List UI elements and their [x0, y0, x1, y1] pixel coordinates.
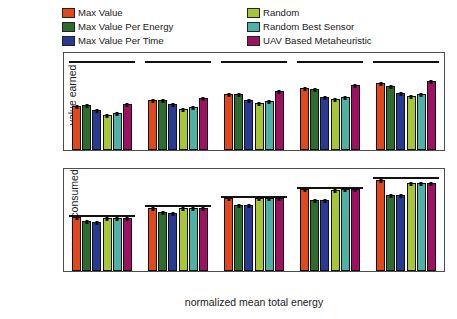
legend-entry: Max Value Per Time [62, 34, 247, 48]
error-bar [126, 103, 129, 107]
bar [168, 104, 177, 150]
legend-label: Random Best Sensor [263, 22, 354, 32]
bar [92, 222, 101, 272]
reference-line [145, 205, 211, 207]
bar [386, 86, 395, 151]
legend-swatch-icon [62, 8, 75, 18]
error-bar [227, 93, 230, 97]
bar [427, 183, 436, 272]
error-bar [95, 109, 98, 113]
legend-label: UAV Based Metaheuristic [263, 36, 372, 46]
bar-group [148, 53, 208, 150]
error-bar [344, 188, 347, 192]
legend-swatch-icon [247, 8, 260, 18]
legend-swatch-icon [62, 36, 75, 46]
bar [310, 89, 319, 150]
bar-group [72, 169, 132, 271]
legend-swatch-icon [247, 36, 260, 46]
reference-line [145, 61, 211, 63]
bar [376, 180, 385, 271]
error-bar [410, 182, 413, 186]
bar [72, 217, 81, 271]
bar-group [224, 169, 284, 271]
bar [224, 94, 233, 150]
bar [148, 100, 157, 150]
error-bar [303, 188, 306, 192]
bar [168, 213, 177, 271]
bar [92, 110, 101, 150]
bar [123, 104, 132, 150]
legend-entry: Max Value Per Energy [62, 20, 247, 34]
bar [234, 94, 243, 150]
chart-panel-energy-consumed: energy consumed 02040600.50.60.70.80.9 [63, 168, 445, 272]
error-bar [430, 182, 433, 186]
error-bar [85, 104, 88, 108]
bar [189, 208, 198, 271]
bar [158, 212, 167, 271]
bar [407, 96, 416, 150]
bar [376, 83, 385, 150]
reference-line [297, 61, 363, 63]
error-bar [379, 82, 382, 86]
reference-line [373, 177, 439, 179]
bar [300, 88, 309, 150]
bar [148, 208, 157, 271]
bar [396, 93, 405, 150]
bar [179, 109, 188, 150]
error-bar [354, 188, 357, 192]
bar [300, 189, 309, 271]
legend-label: Random [263, 8, 299, 18]
error-bar [334, 98, 337, 102]
error-bar [389, 85, 392, 89]
bar [103, 115, 112, 150]
error-bar [420, 182, 423, 186]
bar [103, 218, 112, 271]
error-bar [116, 112, 119, 116]
reference-line [297, 187, 363, 189]
bar [386, 195, 395, 271]
bar-group-bars [300, 169, 360, 271]
error-bar [323, 199, 326, 203]
bar-group-bars [224, 53, 284, 150]
error-bar [420, 93, 423, 97]
legend-label: Max Value Per Energy [78, 22, 173, 32]
chart-panel-value-earned: value earned 05001000 [63, 52, 445, 151]
bar [255, 198, 264, 271]
bar [265, 198, 274, 271]
bar [275, 198, 284, 271]
plot-area-value-earned: 05001000 [64, 53, 444, 150]
error-bar [430, 80, 433, 84]
bar [224, 198, 233, 271]
error-bar [410, 95, 413, 99]
chart-legend: Max ValueRandomMax Value Per EnergyRando… [62, 6, 442, 48]
bar [341, 97, 350, 150]
bar [417, 183, 426, 272]
error-bar [268, 100, 271, 104]
bar [179, 208, 188, 271]
error-bar [227, 197, 230, 201]
bar [427, 81, 436, 150]
error-bar [106, 114, 109, 118]
error-bar [95, 221, 98, 225]
error-bar [399, 92, 402, 96]
error-bar [126, 217, 129, 221]
error-bar [334, 189, 337, 193]
legend-entry: Max Value [62, 6, 247, 20]
bar [351, 85, 360, 150]
error-bar [354, 84, 357, 88]
error-bar [171, 212, 174, 216]
error-bar [247, 204, 250, 208]
error-bar [258, 197, 261, 201]
bar [417, 94, 426, 150]
reference-line [373, 61, 439, 63]
bar [341, 189, 350, 271]
error-bar [399, 194, 402, 198]
bar [320, 97, 329, 150]
x-axis-label: normalized mean total energy [63, 296, 445, 308]
error-bar [182, 108, 185, 112]
bar [255, 103, 264, 150]
bar [310, 200, 319, 271]
bar-group-bars [376, 169, 436, 271]
legend-swatch-icon [62, 22, 75, 32]
bar-group [376, 53, 436, 150]
